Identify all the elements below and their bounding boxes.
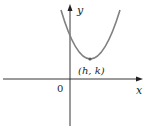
parabola-diagram: y x 0 (h, k) <box>0 0 149 136</box>
x-axis-arrow-icon <box>136 77 143 82</box>
origin-label: 0 <box>57 83 63 94</box>
x-axis-label: x <box>136 84 143 97</box>
y-axis-label: y <box>76 4 84 17</box>
vertex-point <box>88 57 91 60</box>
y-axis-arrow-icon <box>68 4 73 11</box>
vertex-label: (h, k) <box>78 65 105 76</box>
